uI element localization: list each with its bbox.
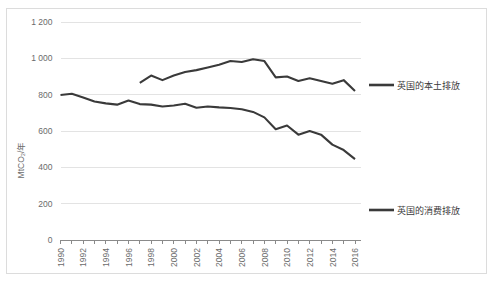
- x-tick-label: 2004: [214, 248, 224, 267]
- series-line-1: [140, 59, 355, 91]
- x-axis-tick-labels: 1990199219941996199820002002200420062008…: [56, 248, 361, 267]
- legend-entry[interactable]: 英国的消费排放: [369, 205, 460, 216]
- legend-label: 英国的消费排放: [397, 205, 460, 216]
- y-tick-label: 800: [38, 90, 52, 100]
- y-axis-title-text: MtCO₂/年: [16, 142, 26, 179]
- series-lines-group: [61, 59, 356, 159]
- x-tick-label: 2002: [192, 248, 202, 267]
- x-tick-label: 2006: [237, 248, 247, 267]
- x-tick-label: 1990: [56, 248, 66, 267]
- x-axis-group: [61, 240, 362, 244]
- y-tick-label: 200: [38, 199, 52, 209]
- y-tick-label: 0: [48, 235, 53, 245]
- gridlines-group: [61, 22, 362, 240]
- x-tick-label: 2014: [328, 248, 338, 267]
- x-tick-label: 1992: [78, 248, 88, 267]
- series-line-2: [61, 94, 356, 159]
- x-tick-label: 2016: [350, 248, 360, 267]
- x-tick-label: 2008: [260, 248, 270, 267]
- x-tick-label: 2012: [305, 248, 315, 267]
- y-tick-label: 1 200: [31, 17, 53, 27]
- y-tick-label: 600: [38, 126, 52, 136]
- line-chart: 02004006008001 0001 200 MtCO₂/年 19901992…: [0, 0, 495, 284]
- y-axis-tick-labels: 02004006008001 0001 200: [31, 17, 53, 245]
- legend-entry[interactable]: 英国的本土排放: [369, 80, 460, 91]
- x-tick-label: 2010: [282, 248, 292, 267]
- y-tick-label: 400: [38, 162, 52, 172]
- chart-legend: 英国的本土排放英国的消费排放: [369, 80, 460, 216]
- y-axis-title: MtCO₂/年: [16, 142, 26, 179]
- x-tick-label: 1996: [124, 248, 134, 267]
- legend-label: 英国的本土排放: [397, 80, 460, 91]
- x-tick-label: 1994: [101, 248, 111, 267]
- chart-figure: 02004006008001 0001 200 MtCO₂/年 19901992…: [0, 0, 495, 284]
- x-tick-label: 2000: [169, 248, 179, 267]
- y-tick-label: 1 000: [31, 53, 53, 63]
- x-tick-label: 1998: [146, 248, 156, 267]
